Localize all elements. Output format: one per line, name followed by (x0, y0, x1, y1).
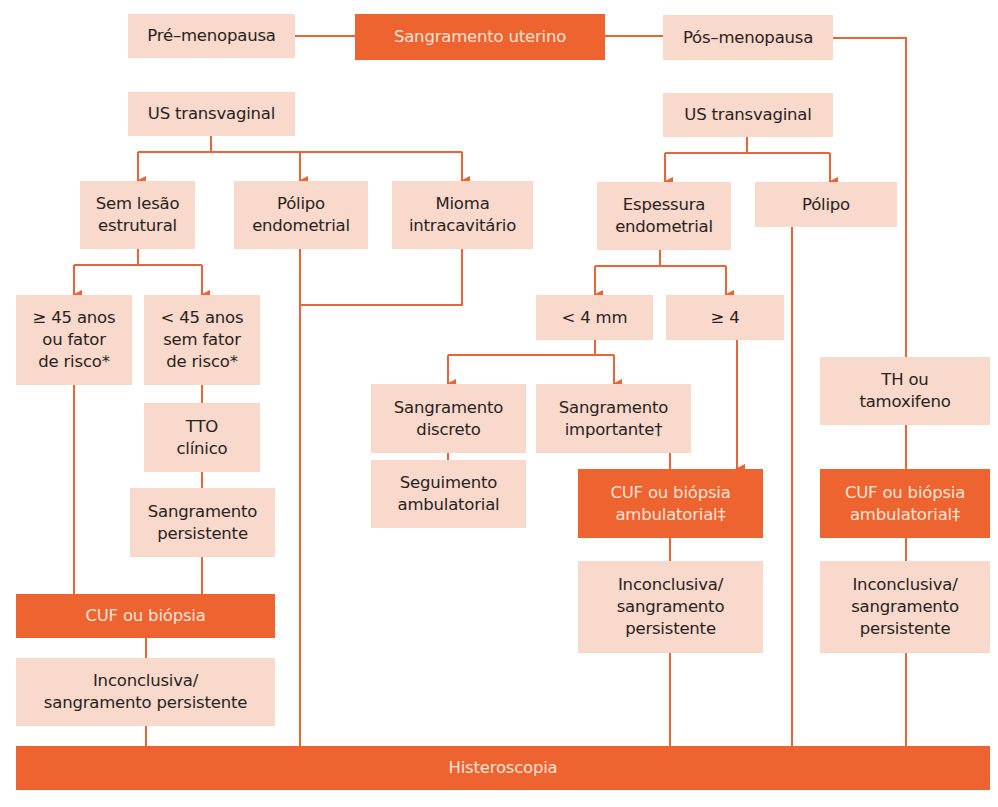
node-sangramento-uterino: Sangramento uterino (355, 14, 605, 60)
node-seguimento: Seguimento ambulatorial (371, 460, 526, 528)
node-pre-menopausa: Pré–menopausa (128, 14, 295, 58)
node-inconclusiva-right: Inconclusiva/ sangramento persistente (820, 561, 990, 653)
node-maior-45: ≥ 45 anos ou fator de risco* (16, 295, 132, 385)
node-us-transvaginal-pre: US transvaginal (128, 92, 295, 136)
node-sangramento-persistente: Sangramento persistente (130, 488, 275, 557)
node-us-transvaginal-pos: US transvaginal (663, 93, 833, 137)
node-tto-clinico: TTO clínico (144, 403, 260, 472)
node-polipo-endometrial: Pólipo endometrial (234, 181, 368, 249)
node-sem-lesao: Sem lesão estrutural (80, 181, 195, 249)
node-cuf-biopsia-left: CUF ou biópsia (16, 594, 275, 638)
node-inconclusiva-mid: Inconclusiva/ sangramento persistente (578, 561, 763, 653)
node-inconclusiva-left: Inconclusiva/ sangramento persistente (16, 658, 275, 726)
node-menor-45: < 45 anos sem fator de risco* (144, 295, 260, 385)
node-sangramento-discreto: Sangramento discreto (371, 384, 526, 453)
node-maior-4: ≥ 4 (666, 295, 784, 340)
node-histeroscopia: Histeroscopia (16, 746, 990, 790)
node-menor-4mm: < 4 mm (536, 295, 653, 340)
node-cuf-ambulatorial-mid: CUF ou biópsia ambulatorial‡ (578, 469, 763, 538)
node-mioma: Mioma intracavitário (392, 181, 533, 249)
node-cuf-ambulatorial-right: CUF ou biópsia ambulatorial‡ (820, 469, 990, 538)
node-sangramento-importante: Sangramento importante† (536, 384, 691, 453)
node-espessura: Espessura endometrial (597, 182, 731, 250)
node-polipo-pos: Pólipo (755, 182, 897, 227)
node-th-tamoxifeno: TH ou tamoxifeno (820, 357, 990, 425)
node-pos-menopausa: Pós–menopausa (663, 15, 833, 60)
